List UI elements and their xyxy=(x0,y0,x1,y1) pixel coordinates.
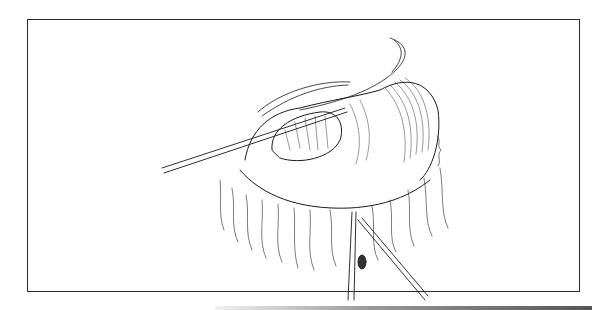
organ-body xyxy=(240,82,439,208)
retractor-instrument xyxy=(162,108,347,173)
page-edge-shadow xyxy=(215,306,592,310)
surgical-illustration xyxy=(0,0,592,310)
forceps-instrument xyxy=(348,212,428,300)
tissue-flap xyxy=(258,38,405,116)
